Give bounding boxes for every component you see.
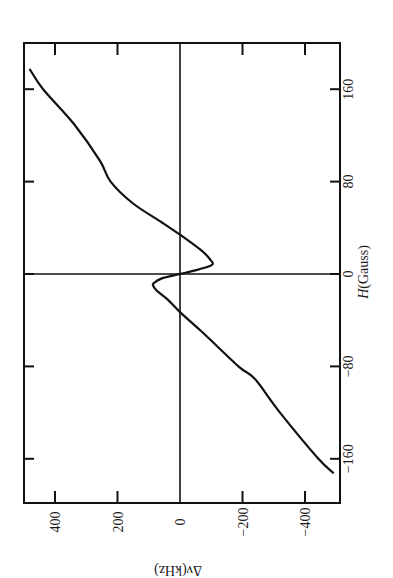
h-tick-label: 0 (341, 271, 356, 278)
h-axis-ticks: −160−80080160 (24, 79, 356, 474)
nu-axis-title: Δν(kHz) (154, 562, 202, 578)
nu-tick-label: −200 (236, 508, 251, 537)
h-axis-title: H(Gauss) (356, 245, 372, 300)
nu-tick-label: 200 (111, 512, 126, 533)
h-tick-label: −160 (341, 444, 356, 473)
nu-tick-label: −400 (298, 508, 313, 537)
h-tick-label: −80 (341, 355, 356, 377)
nu-tick-label: 0 (173, 519, 188, 526)
data-curve (30, 70, 333, 473)
nu-tick-label: 400 (48, 512, 63, 533)
h-tick-label: 160 (341, 79, 356, 100)
chart: −160−80080160 4002000−200−400 H(Gauss) Δ… (0, 0, 393, 578)
h-tick-label: 80 (341, 175, 356, 189)
